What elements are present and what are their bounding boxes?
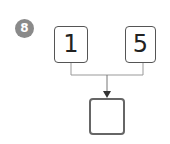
connector-lines xyxy=(0,0,170,144)
answer-box[interactable] xyxy=(89,98,125,135)
arrow-down-icon xyxy=(103,91,111,98)
